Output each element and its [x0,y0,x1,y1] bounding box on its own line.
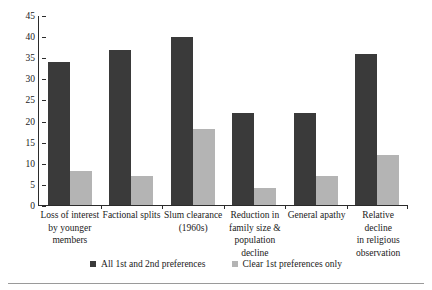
bar [193,129,215,205]
category-label-line: Reduction in [225,209,285,222]
bar [254,188,276,205]
bar-group [162,16,224,205]
bar-group [347,16,409,205]
category-label-line: observation [348,247,408,260]
chart-legend: All 1st and 2nd preferencesClear 1st pre… [0,259,432,269]
plot-area: 051015202530354045 [38,16,408,206]
bar-group [101,16,163,205]
bar-group [285,16,347,205]
category-label-line: Slum clearance [163,209,223,222]
x-axis-category-label: Loss of interestby youngermembers [39,209,101,259]
legend-item: All 1st and 2nd preferences [90,259,205,269]
bar-group [224,16,286,205]
legend-swatch-icon [90,261,96,267]
category-label-line: decline [225,247,285,260]
y-axis-tick-mark [42,206,46,207]
category-label-line: Loss of interest [40,209,100,222]
bars-layer [39,16,408,205]
bar [355,54,377,205]
category-label-line: members [40,234,100,247]
category-label-line: by younger [40,222,100,235]
category-label-line: (1960s) [163,222,223,235]
bar-group [39,16,101,205]
bottom-rule-divider [8,283,424,284]
x-axis-category-labels: Loss of interestby youngermembersFaction… [39,209,409,259]
legend-swatch-icon [232,261,238,267]
x-axis-category-label: Slum clearance(1960s) [162,209,224,259]
bar [232,113,254,205]
x-axis-category-label: Relative declinein religiousobservation [347,209,409,259]
x-axis-category-label: Factional splits [101,209,163,259]
bar [48,62,70,205]
legend-label: Clear 1st preferences only [243,259,342,269]
bar [109,50,131,205]
bar [171,37,193,205]
category-label-line: population [225,234,285,247]
bar [70,171,92,205]
category-label-line: in religious [348,234,408,247]
x-axis-category-label: General apathy [286,209,348,259]
x-axis-category-label: Reduction infamily size &populationdecli… [224,209,286,259]
bar [131,176,153,205]
category-label-line: General apathy [287,209,347,222]
category-label-line: Factional splits [102,209,162,222]
legend-label: All 1st and 2nd preferences [101,259,205,269]
bar-chart-figure: 051015202530354045 Loss of interestby yo… [0,0,432,290]
category-label-line: family size & [225,222,285,235]
legend-item: Clear 1st preferences only [232,259,342,269]
bar [316,176,338,205]
category-label-line: Relative decline [348,209,408,234]
bar [294,113,316,205]
bar [377,155,399,205]
